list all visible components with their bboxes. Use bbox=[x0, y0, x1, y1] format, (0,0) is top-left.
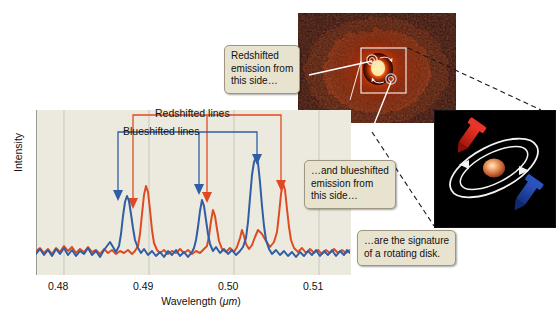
x-axis-label-close: ) bbox=[237, 295, 241, 307]
callout-redshifted-line3: this side… bbox=[231, 75, 293, 88]
callout-blueshifted-emission: …and blueshifted emission from this side… bbox=[304, 160, 396, 209]
redshifted-trace bbox=[36, 183, 350, 254]
callout-signature-line2: of a rotating disk. bbox=[364, 248, 449, 261]
y-axis-label: Intensity bbox=[12, 92, 24, 172]
callout-blueshifted-line2: emission from bbox=[311, 178, 389, 191]
blueshifted-arrowheads bbox=[113, 154, 262, 201]
astro-image-svg bbox=[298, 13, 456, 123]
callout-blueshifted-line3: this side… bbox=[311, 190, 389, 203]
x-axis-label-text: Wavelength ( bbox=[161, 295, 222, 307]
x-axis-label: Wavelength (μm) bbox=[116, 295, 286, 307]
x-tick-2: 0.50 bbox=[218, 280, 238, 292]
x-tick-0: 0.48 bbox=[48, 280, 68, 292]
central-object bbox=[483, 159, 505, 178]
callout-redshifted-line1: Redshifted bbox=[231, 50, 293, 63]
callout-rotating-disk-signature: …are the signature of a rotating disk. bbox=[357, 230, 456, 266]
redshifted-lines-label: Redshifted lines bbox=[155, 107, 230, 119]
blueshifted-lines-label: Blueshifted lines bbox=[123, 125, 199, 137]
figure-root: Redshifted lines Blueshifted lines Inten… bbox=[0, 0, 559, 322]
x-tick-3: 0.51 bbox=[303, 280, 323, 292]
x-axis-label-unit: μm bbox=[223, 295, 238, 307]
telescope-image-of-galactic-nucleus bbox=[298, 13, 456, 123]
callout-redshifted-line2: emission from bbox=[231, 63, 293, 76]
blueshifted-bracket bbox=[118, 132, 257, 192]
callout-redshifted-emission: Redshifted emission from this side… bbox=[224, 45, 300, 94]
blueshifted-trace bbox=[36, 157, 350, 257]
callout-blueshifted-line1: …and blueshifted bbox=[311, 165, 389, 178]
x-tick-1: 0.49 bbox=[133, 280, 153, 292]
rotating-disk-schematic bbox=[434, 110, 556, 228]
disk-diagram-svg bbox=[435, 111, 553, 225]
callout-signature-line1: …are the signature bbox=[364, 235, 449, 248]
spectrum-chart: Redshifted lines Blueshifted lines Inten… bbox=[36, 110, 350, 275]
